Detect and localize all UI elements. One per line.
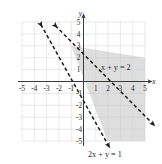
equation-label-line2: 2x + y = 1 (88, 150, 122, 159)
y-tick-1: 1 (77, 66, 81, 74)
x-tick-3: 3 (119, 85, 123, 93)
equation-label-line1: x + y = 2 (101, 63, 131, 72)
y-tick-4: 4 (77, 31, 81, 39)
y-tick-3: 3 (77, 42, 81, 50)
x-axis-label: x (151, 77, 156, 86)
x-tick-4: 4 (131, 85, 135, 93)
x-tick-1: 1 (94, 85, 98, 93)
y-tick-2: 2 (77, 54, 81, 62)
coordinate-plane: -5 -4 -3 -2 -1 1 2 3 4 5 5 4 3 2 1 -1 -2… (0, 0, 162, 164)
x-tick-neg5: -5 (19, 85, 25, 93)
x-tick-2: 2 (106, 85, 110, 93)
y-tick-neg5: -5 (76, 138, 82, 146)
y-tick-neg3: -3 (76, 114, 82, 122)
y-tick-5: 5 (77, 19, 81, 27)
x-tick-neg4: -4 (31, 85, 37, 93)
graph-figure: -5 -4 -3 -2 -1 1 2 3 4 5 5 4 3 2 1 -1 -2… (0, 0, 162, 164)
y-tick-neg4: -4 (76, 126, 82, 134)
x-tick-neg3: -3 (44, 85, 50, 93)
y-axis-label: y (78, 9, 83, 18)
x-tick-neg1: -1 (68, 85, 74, 93)
y-tick-neg1: -1 (76, 90, 82, 98)
x-tick-5: 5 (143, 85, 147, 93)
y-tick-neg2: -2 (76, 102, 82, 110)
x-tick-neg2: -2 (56, 85, 62, 93)
